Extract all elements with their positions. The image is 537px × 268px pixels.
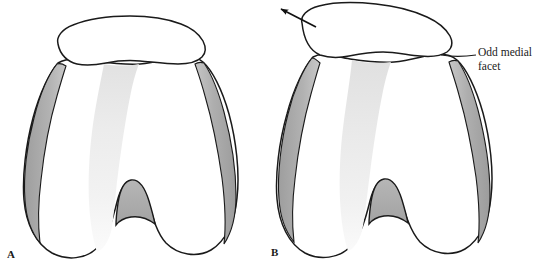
panel-b-letter: B (271, 246, 279, 258)
odd-medial-facet-leader-line (441, 55, 476, 57)
patella-outline-a (58, 16, 206, 65)
odd-medial-facet-label: Odd medial facet (478, 46, 537, 73)
panel-a-letter: A (7, 248, 15, 260)
panel-b-patella (302, 3, 452, 58)
panel-b-group (276, 3, 492, 258)
panel-a-patella (58, 16, 206, 65)
patella-outline-b (302, 3, 452, 58)
panel-a-femur (23, 56, 238, 258)
anatomy-illustration-svg (0, 0, 537, 268)
panel-b-femur (276, 54, 492, 257)
panel-a-group (23, 16, 238, 258)
figure-container: A B Odd medial facet (0, 0, 537, 268)
